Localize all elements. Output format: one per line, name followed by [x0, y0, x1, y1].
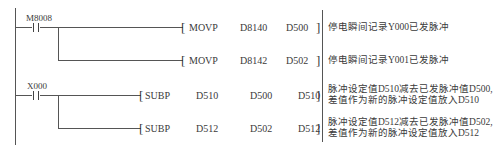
open-bracket: [: [181, 21, 185, 34]
instruction-op: MOVP: [189, 55, 218, 66]
operand-dest: D500: [286, 22, 308, 33]
branch-horizontal-wire: [58, 60, 183, 61]
instruction-comment-line-1: 脉冲设定值D512减去已发脉冲值D502,: [328, 117, 493, 128]
rung-wire: [15, 27, 183, 28]
open-bracket: [: [181, 54, 185, 67]
normally-open-contact-icon[interactable]: [32, 91, 40, 100]
operand-s1: D512: [196, 123, 218, 134]
branch-vertical-wire: [58, 27, 59, 60]
close-bracket: ]: [316, 54, 320, 67]
instruction-comment: 停电瞬间记录Y001已发脉冲: [328, 55, 449, 66]
branch-vertical-wire: [58, 95, 59, 128]
instruction-comment: 停电瞬间记录Y000已发脉冲: [328, 22, 449, 33]
operand-s1: D510: [196, 90, 218, 101]
operand-s2: D502: [250, 123, 272, 134]
instruction-comment-line-2: 差值作为新的脉冲设定值放入D512: [328, 128, 479, 139]
close-bracket: ]: [316, 89, 320, 102]
instruction-op: MOVP: [189, 22, 218, 33]
left-power-rail: [15, 8, 16, 145]
open-bracket: [: [139, 122, 143, 135]
operand-source: D8142: [240, 55, 267, 66]
comment-separator: [322, 10, 323, 142]
branch-horizontal-wire: [58, 128, 141, 129]
instruction-op: SUBP: [145, 90, 170, 101]
operand-s2: D500: [250, 90, 272, 101]
instruction-op: SUBP: [145, 123, 170, 134]
open-bracket: [: [139, 89, 143, 102]
contact-label: M8008: [26, 13, 52, 23]
operand-dest: D502: [286, 55, 308, 66]
instruction-comment-line-2: 差值作为新的脉冲设定值放入D510: [328, 95, 479, 106]
close-bracket: ]: [316, 21, 320, 34]
close-bracket: ]: [316, 122, 320, 135]
contact-label: X000: [27, 81, 47, 91]
instruction-comment-line-1: 脉冲设定值D510减去已发脉冲值D500,: [328, 84, 493, 95]
operand-source: D8140: [240, 22, 267, 33]
normally-open-contact-icon[interactable]: [32, 23, 40, 32]
